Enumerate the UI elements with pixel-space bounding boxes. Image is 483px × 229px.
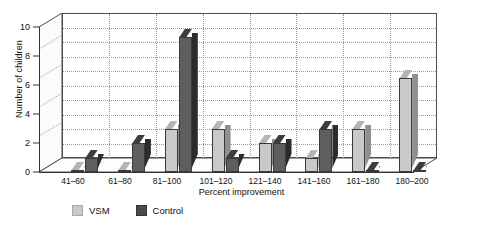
- y-tick-mark: [33, 27, 39, 28]
- y-tick-label: 8: [8, 51, 30, 61]
- bar-vsm[interactable]: [212, 129, 225, 173]
- bar-vsm[interactable]: [399, 78, 412, 172]
- bar-vsm[interactable]: [305, 158, 318, 173]
- legend: VSM Control: [72, 205, 183, 216]
- light-gray-swatch-icon: [72, 205, 83, 216]
- y-tick-mark: [33, 172, 39, 173]
- x-tick-label: 180–200: [395, 176, 428, 186]
- bar-group: [203, 0, 250, 172]
- bar-vsm[interactable]: [165, 129, 178, 173]
- y-tick-mark: [33, 85, 39, 86]
- bar-group: [390, 0, 437, 172]
- left-side-panel: [39, 13, 62, 172]
- bar-control[interactable]: [179, 37, 192, 172]
- bar-control[interactable]: [319, 129, 332, 173]
- bar-vsm[interactable]: [259, 143, 272, 172]
- y-tick-mark: [33, 114, 39, 115]
- bar-group: [296, 0, 343, 172]
- bar-vsm[interactable]: [352, 129, 365, 173]
- legend-label-vsm: VSM: [89, 205, 110, 216]
- bar-control[interactable]: [273, 143, 286, 172]
- y-tick-label: 0: [8, 167, 30, 177]
- bar-vsm[interactable]: [118, 170, 131, 172]
- bar-chart-figure: Number of children: [0, 0, 483, 229]
- plot-area: 0 2 4 6 8 10: [0, 0, 483, 229]
- bar-group: [156, 0, 203, 172]
- x-tick-label: 61–80: [108, 176, 132, 186]
- bar-control[interactable]: [85, 158, 98, 173]
- dark-gray-swatch-icon: [136, 205, 147, 216]
- y-tick-label: 6: [8, 80, 30, 90]
- legend-label-control: Control: [153, 205, 184, 216]
- bar-group: [250, 0, 297, 172]
- bar-group: [343, 0, 390, 172]
- legend-item-control[interactable]: Control: [136, 205, 184, 216]
- bar-control[interactable]: [413, 170, 426, 172]
- x-tick-label: 81–100: [153, 176, 181, 186]
- bar-control[interactable]: [226, 158, 239, 173]
- bar-control[interactable]: [132, 143, 145, 172]
- y-tick-label: 4: [8, 109, 30, 119]
- y-axis-line: [39, 27, 40, 172]
- x-tick-label: 141–160: [297, 176, 330, 186]
- y-tick-mark: [33, 56, 39, 57]
- legend-item-vsm[interactable]: VSM: [72, 205, 110, 216]
- x-axis-title: Percent improvement: [0, 187, 483, 197]
- x-axis-line: [39, 172, 414, 173]
- x-tick-label: 101–120: [199, 176, 232, 186]
- bar-vsm[interactable]: [71, 170, 84, 172]
- y-tick-label: 10: [8, 22, 30, 32]
- bar-group: [109, 0, 156, 172]
- y-tick-label: 2: [8, 138, 30, 148]
- x-tick-label: 41–60: [61, 176, 85, 186]
- bar-group: [62, 0, 109, 172]
- y-tick-mark: [33, 143, 39, 144]
- x-tick-label: 161–180: [346, 176, 379, 186]
- x-tick-label: 121–140: [248, 176, 281, 186]
- bar-control[interactable]: [366, 170, 379, 172]
